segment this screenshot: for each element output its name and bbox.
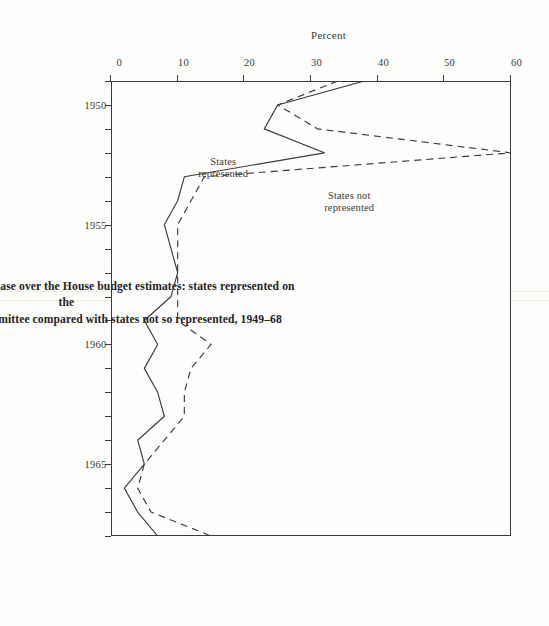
- x-axis-tick: [105, 249, 111, 250]
- x-axis-tick: [105, 416, 111, 417]
- x-axis-tick: [105, 536, 111, 537]
- x-axis-tick: [105, 177, 111, 178]
- y-axis-tick: [243, 75, 244, 81]
- x-tick-label-1965: 1965: [84, 459, 106, 470]
- y-axis-tick: [176, 75, 177, 81]
- y-axis-title: Percent: [311, 29, 346, 41]
- x-axis-tick: [105, 129, 111, 130]
- y-tick-label-20: 20: [233, 57, 255, 68]
- annotation-states-not-represented: States not represented: [324, 190, 374, 214]
- caption-line-2: S.A.C. Public Works Subcommittee compare…: [0, 312, 301, 328]
- x-axis-tick: [105, 201, 111, 202]
- annotation-represented-line1: States: [210, 156, 236, 167]
- x-axis-tick: [105, 392, 111, 393]
- y-tick-label-0: 0: [100, 57, 122, 68]
- y-tick-label-30: 30: [300, 57, 322, 68]
- scanned-page: States not represented States represente…: [0, 0, 549, 626]
- x-axis-tick: [105, 440, 111, 441]
- y-axis-tick: [510, 75, 511, 81]
- y-tick-label-10: 10: [166, 57, 188, 68]
- annotation-states-represented: States represented: [198, 156, 248, 180]
- caption-line-1: Fig. 10.1 Percent of Senate increase ove…: [0, 280, 294, 309]
- y-axis-tick: [443, 75, 444, 81]
- y-axis-tick: [376, 75, 377, 81]
- x-tick-label-1950: 1950: [84, 99, 106, 110]
- x-axis-tick: [105, 81, 111, 82]
- x-tick-label-1960: 1960: [84, 339, 106, 350]
- y-tick-label-60: 60: [500, 57, 522, 68]
- rotated-figure: States not represented States represente…: [25, 23, 525, 603]
- y-axis-tick: [310, 75, 311, 81]
- x-axis-tick: [105, 488, 111, 489]
- x-axis-tick: [105, 512, 111, 513]
- figure-caption: Fig. 10.1 Percent of Senate increase ove…: [0, 279, 301, 328]
- y-tick-label-50: 50: [433, 57, 455, 68]
- annotation-not-represented-line2: represented: [324, 202, 374, 213]
- x-axis-tick: [105, 273, 111, 274]
- x-tick-label-1955: 1955: [84, 219, 106, 230]
- y-axis-tick: [110, 75, 111, 81]
- y-tick-label-40: 40: [366, 57, 388, 68]
- x-axis-tick: [105, 153, 111, 154]
- annotation-represented-line2: represented: [198, 168, 248, 179]
- annotation-not-represented-line1: States not: [327, 190, 370, 201]
- x-axis-tick: [105, 368, 111, 369]
